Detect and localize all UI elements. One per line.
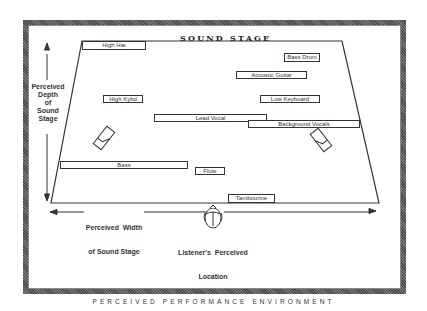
figure-caption: PERCEIVED PERFORMANCE ENVIRONMENT <box>0 298 427 305</box>
instrument-high-hat: High Hat <box>82 41 146 50</box>
width-axis-label: Perceived Width of Sound Stage <box>84 208 144 264</box>
instrument-low-keyboard: Low Keyboard <box>260 95 320 103</box>
sound-stage-title: SOUND STAGE <box>180 33 271 43</box>
width-label-line: Perceived Width <box>84 224 144 232</box>
depth-label-line: Stage <box>26 115 70 123</box>
instrument-background-vocals: Background Vocals <box>248 120 360 128</box>
instrument-tambourine: Tambourine <box>228 194 275 203</box>
listener-label-line: Listener's Perceived <box>168 249 258 257</box>
depth-label-line: Depth <box>26 91 70 99</box>
depth-label-line: Perceived <box>26 83 70 91</box>
instrument-bass: Bass <box>60 161 188 169</box>
depth-label-line: Sound <box>26 107 70 115</box>
listener-location-label: Listener's Perceived Location <box>168 233 258 289</box>
depth-label-line: of <box>26 99 70 107</box>
listener-head-icon <box>204 205 222 228</box>
instrument-high-kybd: High Kybd <box>103 95 143 103</box>
width-label-line: of Sound Stage <box>84 248 144 256</box>
instrument-flute: Flute <box>195 167 225 175</box>
right-speaker-icon <box>310 128 331 151</box>
instrument-bass-drum: Bass Drum <box>284 53 320 62</box>
instrument-acoustic-guitar: Acoustic Guitar <box>236 71 307 79</box>
depth-axis-label: Perceived Depth of Sound Stage <box>26 83 70 123</box>
left-speaker-icon <box>93 126 114 149</box>
listener-label-line: Location <box>168 273 258 281</box>
